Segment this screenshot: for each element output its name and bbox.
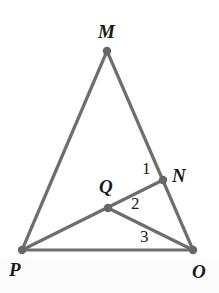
segment-QO [108, 208, 193, 250]
angle-label-1: 1 [142, 160, 151, 177]
vertex-label-O: O [192, 262, 206, 281]
point-dot-P [18, 246, 26, 254]
vertex-label-N: N [172, 166, 186, 185]
angle-label-2: 2 [131, 195, 140, 212]
angle-label-3: 3 [140, 228, 149, 245]
figure-canvas [0, 0, 219, 293]
segment-MO [107, 51, 193, 250]
point-dot-M [103, 47, 111, 55]
point-dot-Q [104, 204, 112, 212]
geometry-figure: M N Q P O 1 2 3 [0, 0, 219, 293]
vertex-label-P: P [9, 260, 21, 279]
point-dot-N [159, 176, 167, 184]
vertex-label-M: M [98, 22, 115, 41]
point-dot-O [189, 246, 197, 254]
segment-MP [22, 51, 107, 250]
vertex-label-Q: Q [99, 177, 113, 196]
